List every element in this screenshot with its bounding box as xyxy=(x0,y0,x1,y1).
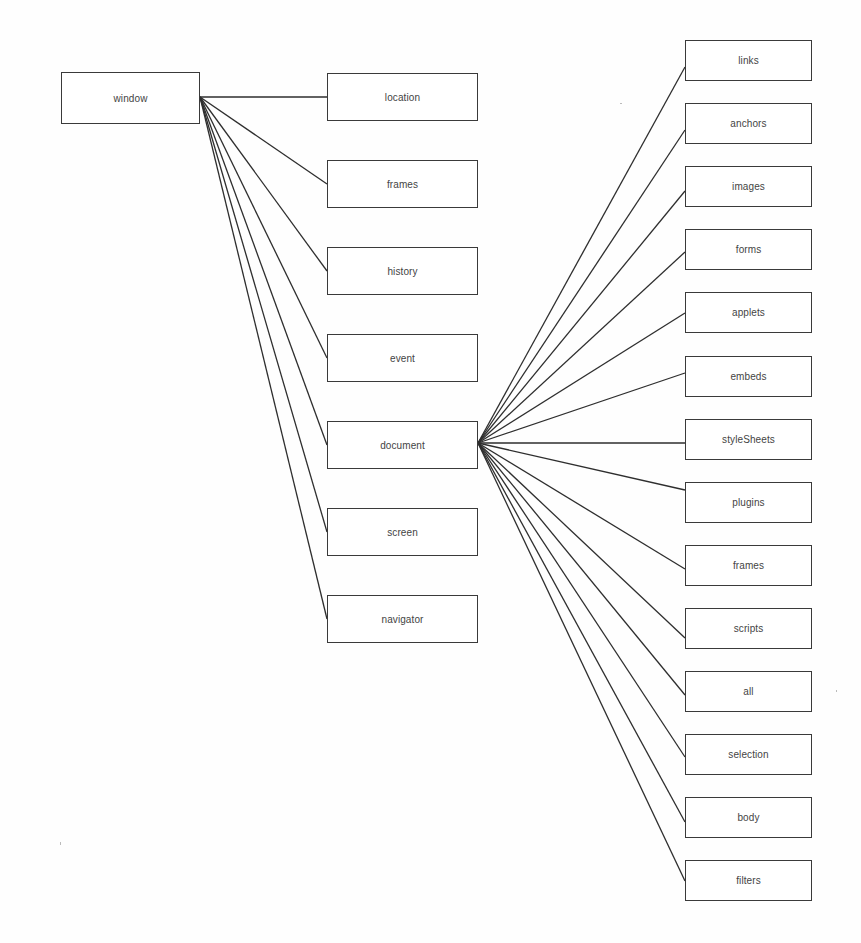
node-frames: frames xyxy=(327,160,478,208)
node-label: history xyxy=(387,266,417,277)
connector-line xyxy=(478,443,685,695)
node-label: screen xyxy=(387,527,418,538)
connector-line xyxy=(478,373,685,443)
object-model-diagram: window locationframeshistoryeventdocumen… xyxy=(0,0,861,943)
node-embeds: embeds xyxy=(685,356,812,397)
node-applets: applets xyxy=(685,292,812,333)
node-all: all xyxy=(685,671,812,712)
node-label: embeds xyxy=(730,371,766,382)
connector-line xyxy=(200,97,327,184)
connector-line xyxy=(478,443,685,638)
connector-line xyxy=(478,443,685,822)
connector-line xyxy=(478,130,685,443)
node-label: body xyxy=(737,812,759,823)
node-stylesheets: styleSheets xyxy=(685,419,812,460)
node-body: body xyxy=(685,797,812,838)
scan-speck xyxy=(620,103,622,104)
node-label: selection xyxy=(728,749,768,760)
node-history: history xyxy=(327,247,478,295)
node-label: event xyxy=(390,353,415,364)
node-label: plugins xyxy=(732,497,764,508)
connector-line xyxy=(200,97,327,445)
node-event: event xyxy=(327,334,478,382)
node-label: frames xyxy=(733,560,764,571)
connector-line xyxy=(478,313,685,443)
node-links: links xyxy=(685,40,812,81)
node-label: styleSheets xyxy=(722,434,775,445)
connector-line xyxy=(200,97,327,619)
node-label: all xyxy=(743,686,753,697)
connector-line xyxy=(478,67,685,443)
node-screen: screen xyxy=(327,508,478,556)
node-label: window xyxy=(114,93,148,104)
node-label: frames xyxy=(387,179,418,190)
connector-line xyxy=(478,443,685,881)
node-label: links xyxy=(738,55,759,66)
node-label: images xyxy=(732,181,765,192)
scan-speck xyxy=(60,842,61,845)
node-selection: selection xyxy=(685,734,812,775)
node-label: filters xyxy=(736,875,761,886)
connector-line xyxy=(478,191,685,443)
node-images: images xyxy=(685,166,812,207)
node-filters: filters xyxy=(685,860,812,901)
node-scripts: scripts xyxy=(685,608,812,649)
node-location: location xyxy=(327,73,478,121)
node-label: document xyxy=(380,440,425,451)
node-label: location xyxy=(385,92,420,103)
scan-speck xyxy=(836,690,837,692)
connector-line xyxy=(200,97,327,358)
node-window: window xyxy=(61,72,200,124)
node-frames2: frames xyxy=(685,545,812,586)
connector-line xyxy=(478,443,685,490)
node-label: applets xyxy=(732,307,765,318)
connector-line xyxy=(478,252,685,443)
connector-line xyxy=(200,97,327,271)
node-label: navigator xyxy=(381,614,423,625)
node-forms: forms xyxy=(685,229,812,270)
node-navigator: navigator xyxy=(327,595,478,643)
connector-line xyxy=(200,97,327,532)
node-anchors: anchors xyxy=(685,103,812,144)
connector-line xyxy=(478,443,685,569)
connector-line xyxy=(478,443,685,757)
node-label: scripts xyxy=(734,623,764,634)
node-label: anchors xyxy=(730,118,766,129)
node-document: document xyxy=(327,421,478,469)
node-plugins: plugins xyxy=(685,482,812,523)
node-label: forms xyxy=(736,244,762,255)
